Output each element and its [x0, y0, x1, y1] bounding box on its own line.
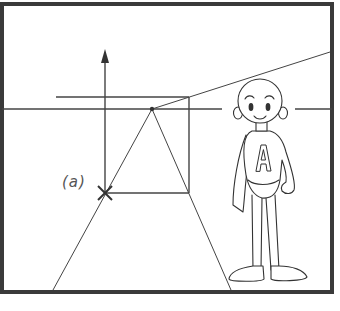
convergence-line-right [152, 109, 231, 290]
point-a-label: (a) [62, 173, 86, 191]
figure-right-shoe [271, 266, 307, 281]
figure-left-shoe [229, 266, 264, 281]
perspective-diagram [0, 0, 340, 311]
convergence-line-left [53, 109, 152, 290]
figure-right-leg [266, 195, 279, 270]
figure-left-leg [252, 195, 262, 270]
vanishing-point [150, 107, 154, 111]
figure-eye-right [266, 103, 271, 111]
figure-eye-left [249, 103, 254, 111]
figure-head [238, 79, 282, 123]
arrow-up-icon [101, 49, 109, 63]
